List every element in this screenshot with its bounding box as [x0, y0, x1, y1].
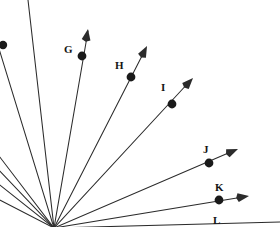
ray-line-ray-g: [54, 31, 88, 227]
point-marker-ray-h: [127, 73, 136, 82]
point-marker-ray-g: [78, 52, 87, 61]
ray-fan-figure: GHIJKL: [0, 0, 280, 227]
ray-fan-canvas: [0, 0, 280, 227]
point-marker-ray-k: [215, 196, 224, 205]
point-label-k: K: [215, 182, 224, 193]
point-marker-ray-a: [0, 41, 7, 49]
point-label-g: G: [64, 44, 73, 55]
rays-group: [0, 0, 280, 227]
ray-line-ray-b: [28, 0, 54, 227]
arrowhead-ray-j: [226, 149, 238, 157]
point-marker-ray-i: [168, 100, 177, 109]
arrowhead-ray-g: [82, 29, 91, 42]
arrowhead-ray-k: [236, 193, 249, 202]
point-marker-ray-j: [205, 159, 214, 168]
point-label-j: J: [203, 144, 209, 155]
ray-dots-group: [0, 41, 223, 205]
point-label-l: L: [213, 215, 220, 226]
point-label-i: I: [161, 82, 165, 93]
ray-line-ray-a: [0, 39, 54, 227]
ray-arrowheads-group: [82, 29, 249, 202]
ray-line-ray-c: [0, 152, 54, 227]
point-label-h: H: [115, 60, 124, 71]
arrowhead-ray-h: [138, 46, 147, 58]
